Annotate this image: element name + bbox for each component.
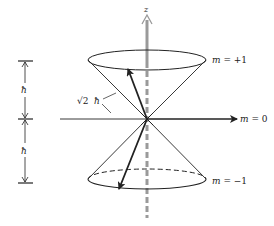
dimension-label-lower: ħ	[21, 146, 27, 156]
dimension-markers	[18, 61, 33, 183]
label-m-minus1: m = −1	[212, 176, 247, 186]
svg-text:√2: √2	[77, 96, 88, 106]
vector-model-diagram: z m = +1 m = 0 m = −1 √2 ħ	[0, 0, 274, 226]
label-m-0: m = 0	[240, 114, 268, 124]
z-axis-label: z	[143, 5, 149, 14]
m-plus1-vector	[128, 69, 147, 119]
svg-text:ħ: ħ	[94, 96, 100, 106]
dimension-label-upper: ħ	[21, 85, 27, 95]
m-minus1-vector	[119, 119, 147, 189]
label-m-plus1: m = +1	[212, 55, 247, 65]
vector-length-label: √2 ħ	[77, 93, 116, 113]
